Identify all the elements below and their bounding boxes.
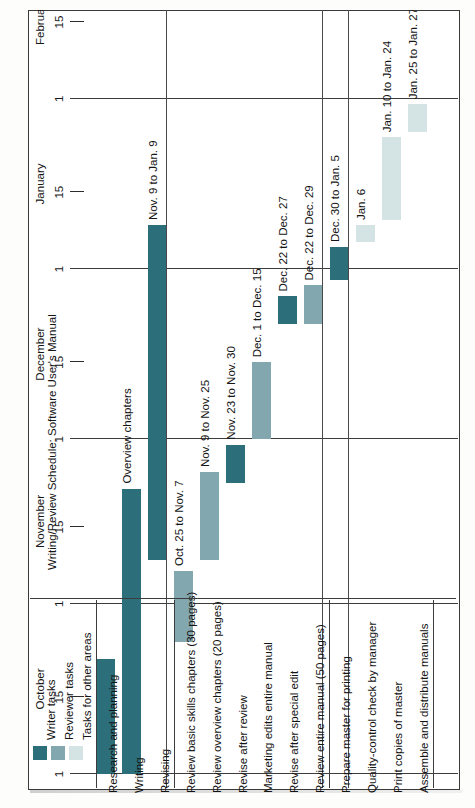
gantt-bar-label: Dec. 22 to Dec. 27 (277, 196, 289, 291)
group-gridline (166, 10, 167, 788)
axis-tick-label: 15 (53, 186, 65, 199)
axis-month-label: February (34, 10, 46, 45)
axis-tick-label: 15 (53, 16, 65, 29)
legend-section-divider (96, 600, 97, 788)
gantt-bar-label: Dec. 1 to Dec. 15 (251, 268, 263, 357)
gantt-bar-label: Dec. 22 to Dec. 29 (303, 185, 315, 280)
gantt-bar-label: Nov. 9 to Nov. 25 (199, 380, 211, 467)
other-section-divider (433, 600, 434, 788)
legend-swatch-reviewer (51, 746, 65, 760)
gantt-row[interactable]: Nov. 23 to Nov. 30 (222, 10, 248, 788)
legend-swatch-writer (33, 746, 47, 760)
gantt-bar-label: Overview chapters (121, 388, 133, 483)
gantt-bar[interactable] (408, 104, 427, 131)
gantt-row[interactable]: Basic skills chaptersOverview chapters (118, 10, 144, 788)
gantt-bar-label: Jan. 6 (355, 189, 367, 220)
axis-tick-label: 1 (53, 96, 65, 102)
task-name-label: Quality-control check by manager (366, 622, 378, 793)
axis-tick-label: 1 (53, 601, 65, 607)
task-name-label: Revise after review (237, 695, 249, 793)
legend-label-reviewer: Reviewer tasks (63, 662, 75, 740)
reviewer-section-divider (329, 600, 330, 788)
task-name-label: Marketing edits entire manual (262, 642, 274, 793)
gantt-row[interactable]: Jan. 10 to Jan. 24 (378, 10, 404, 788)
task-name-label: Research and planning (107, 675, 119, 793)
task-name-label: Writing (133, 757, 145, 793)
legend-label-other: Tasks for other areas (81, 633, 93, 740)
gantt-bar[interactable] (226, 445, 245, 483)
gantt-bar[interactable] (200, 472, 219, 560)
gantt-bar-label: Nov. 23 to Nov. 30 (225, 346, 237, 440)
writer-section-divider (174, 600, 175, 788)
gantt-bar-label: Oct. 25 to Nov. 7 (173, 480, 185, 565)
legend-label-writer: Writer tasks (45, 680, 57, 741)
task-name-label: Revising (159, 749, 171, 793)
gantt-bar[interactable] (330, 247, 349, 280)
axis-tick-mark (70, 526, 84, 527)
task-name-label: Review entire manual (50 pages) (314, 624, 326, 793)
gantt-bar[interactable] (356, 225, 375, 241)
gantt-chart-page: October115November115December115January1… (0, 0, 475, 808)
axis-month-label: December (34, 328, 46, 381)
gantt-bar[interactable] (304, 285, 323, 323)
task-name-label: Assemble and distribute manuals (418, 624, 430, 793)
gantt-bar-label: Dec. 30 to Jan. 5 (329, 155, 341, 242)
task-name-label: Review overview chapters (20 pages) (211, 601, 223, 793)
gantt-bar[interactable] (382, 137, 401, 219)
gantt-bar-label: Jan. 25 to Jan. 27 (407, 10, 419, 99)
gantt-bar[interactable] (252, 362, 271, 439)
axis-tick-mark (70, 361, 84, 362)
axis-month-label: January (34, 163, 46, 204)
axis-tick-mark (70, 21, 84, 22)
gantt-bar[interactable] (148, 225, 167, 560)
task-name-label: Review basic skills chapters (30 pages) (185, 592, 197, 793)
gantt-bar-label: Nov. 9 to Jan. 9 (147, 140, 159, 220)
names-plot-divider (30, 598, 456, 599)
gantt-bar[interactable] (122, 489, 141, 698)
axis-month-label: November (34, 495, 46, 548)
task-name-label: Print copies of master (392, 682, 404, 793)
axis-tick-label: 1 (53, 266, 65, 272)
gantt-bar-label: Jan. 10 to Jan. 24 (381, 41, 393, 132)
axis-tick-label: 1 (53, 771, 65, 777)
task-name-label: Revise after special edit (288, 671, 300, 793)
task-name-label: Prepare master for printing (340, 656, 352, 793)
axis-tick-mark (70, 191, 84, 192)
gantt-bar[interactable] (278, 296, 297, 323)
page-title-text: Writing/Review Schedule: Software User's… (46, 314, 58, 570)
legend-swatch-other (69, 746, 83, 760)
